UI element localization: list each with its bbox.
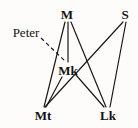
edge-s-mt [45, 22, 123, 107]
node-label-m: M [61, 8, 73, 21]
node-label-mk: Mk [58, 64, 78, 77]
annotation-label-peter: Peter [13, 26, 40, 39]
edge-s-lk [110, 22, 126, 107]
graph-diagram: Peter M S Mk Mt Lk [0, 0, 138, 128]
node-label-s: S [121, 8, 128, 21]
node-label-mt: Mt [35, 109, 52, 122]
node-label-lk: Lk [100, 109, 116, 122]
edge-mk-mt [46, 77, 62, 107]
dashed-edge-peter-mk [41, 38, 66, 62]
